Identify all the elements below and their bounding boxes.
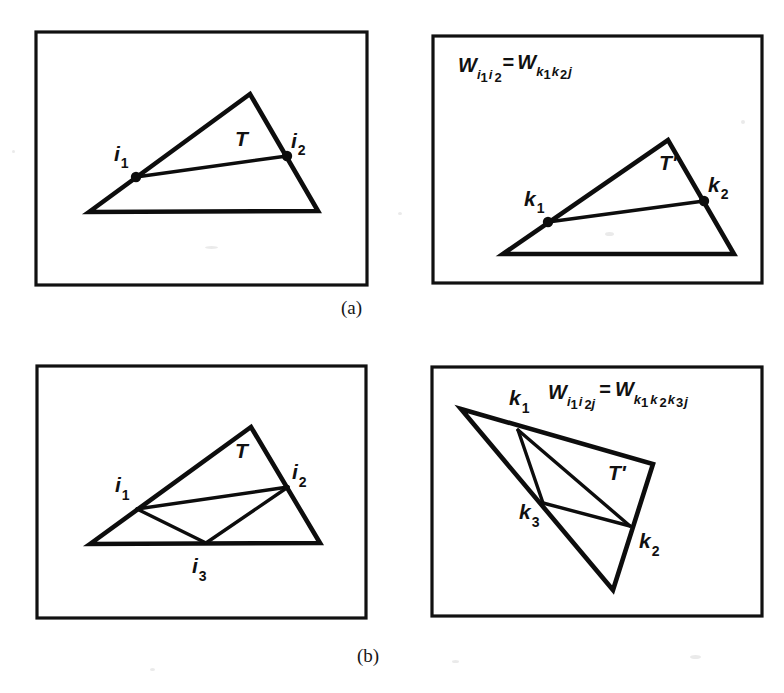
caption-b: (b) bbox=[357, 645, 379, 667]
eq-lhs-sub-3: i bbox=[579, 394, 583, 409]
panel-a-left: T i1 i2 bbox=[36, 32, 367, 285]
vertex-label-k3-sub: 3 bbox=[532, 514, 540, 530]
panel-border bbox=[432, 367, 762, 616]
figure-root: T i1 i2 Wi1i2=Wk1k2j T' k1 k2 T bbox=[0, 0, 784, 693]
scan-speck bbox=[605, 232, 614, 236]
eq-rhs-base: W bbox=[615, 378, 636, 400]
vertex-label-k2-sub: 2 bbox=[721, 186, 729, 202]
eq-rhs-sub-3: k bbox=[552, 64, 560, 79]
vertex-label-i2-sub: 2 bbox=[299, 474, 307, 490]
panel-border bbox=[36, 32, 367, 285]
scan-speck bbox=[452, 660, 459, 663]
eq-rhs-sub-3: k bbox=[650, 392, 658, 407]
scan-speck bbox=[398, 212, 402, 215]
vertex-label-k1-base: k bbox=[524, 187, 537, 210]
vertex-label-k2-base: k bbox=[639, 529, 652, 552]
vertex-label-i2-sub: 2 bbox=[298, 142, 306, 158]
eq-operator: = bbox=[503, 51, 515, 73]
vertex-dot-k2 bbox=[699, 196, 709, 206]
triangle-label-T: T bbox=[235, 127, 250, 150]
vertex-label-k1-sub: 1 bbox=[537, 200, 545, 216]
eq-rhs-sub-4: 2 bbox=[660, 395, 667, 410]
vertex-label-k2-sub: 2 bbox=[652, 543, 660, 559]
eq-lhs-base: W bbox=[458, 54, 479, 76]
eq-rhs-sub-2: 1 bbox=[543, 67, 550, 82]
scan-speck bbox=[690, 655, 701, 659]
scan-speck bbox=[150, 668, 155, 671]
scan-speck bbox=[12, 150, 15, 153]
eq-lhs-sub-2: 1 bbox=[481, 70, 488, 85]
eq-lhs-sub-4: 2 bbox=[494, 70, 501, 85]
vertex-label-i3-sub: 3 bbox=[199, 568, 207, 584]
eq-operator: = bbox=[599, 378, 611, 400]
eq-rhs-base: W bbox=[517, 51, 538, 73]
vertex-label-k3-base: k bbox=[519, 500, 532, 523]
panel-b-left: T i1 i2 i3 bbox=[37, 366, 366, 618]
vertex-dot-i2 bbox=[282, 151, 292, 161]
vertex-label-k1-sub: 1 bbox=[522, 400, 530, 416]
figure-canvas: T i1 i2 Wi1i2=Wk1k2j T' k1 k2 T bbox=[0, 0, 784, 693]
vertex-dot-i1 bbox=[131, 172, 141, 182]
panel-a-right: Wi1i2=Wk1k2j T' k1 k2 bbox=[433, 36, 762, 283]
panel-b-right: Wi1i2j=Wk1k2k3j k1 k2 k3 T' bbox=[432, 367, 762, 616]
vertex-label-i1-sub: 1 bbox=[122, 487, 130, 503]
scan-speck bbox=[205, 246, 218, 249]
eq-lhs-sub-2: 1 bbox=[571, 397, 578, 412]
eq-lhs-sub-4: 2 bbox=[584, 397, 591, 412]
eq-rhs-sub-5: k bbox=[668, 392, 676, 407]
triangle-label-T: T bbox=[235, 439, 250, 462]
vertex-label-k1-base: k bbox=[509, 386, 522, 409]
vertex-label-i1-sub: 1 bbox=[121, 155, 129, 171]
vertex-label-k2-base: k bbox=[708, 173, 721, 196]
scan-speck bbox=[741, 120, 745, 124]
triangle-label-T-prime: T' bbox=[659, 151, 678, 174]
vertex-dot-k1 bbox=[543, 217, 553, 227]
eq-rhs-sub-2: 1 bbox=[641, 395, 648, 410]
caption-a: (a) bbox=[341, 297, 362, 319]
eq-lhs-sub-3: i bbox=[489, 67, 493, 82]
eq-rhs-sub-6: 3 bbox=[676, 395, 683, 410]
eq-lhs-base: W bbox=[548, 381, 569, 403]
triangle-label-T-prime: T' bbox=[608, 461, 627, 484]
eq-rhs-sub-4: 2 bbox=[560, 67, 567, 82]
